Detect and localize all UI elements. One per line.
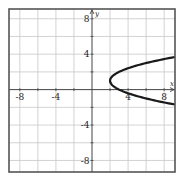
y-tick-label: -8 <box>81 156 90 166</box>
axes <box>9 9 175 172</box>
x-tick-label: -4 <box>52 92 61 102</box>
y-axis-label: y <box>94 10 100 18</box>
x-tick-label: -8 <box>15 92 24 102</box>
x-axis-label: x <box>170 80 174 88</box>
parabola-graph: -8-44884-4-8 x y <box>0 0 185 180</box>
y-tick-label: 8 <box>84 14 90 24</box>
x-tick-label: 8 <box>161 92 167 102</box>
y-tick-label: -4 <box>81 120 90 130</box>
y-tick-label: 4 <box>84 49 90 59</box>
